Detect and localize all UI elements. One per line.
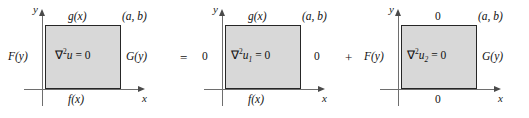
y-axis-arrow-icon: [395, 9, 401, 16]
corner-coordinate-label: (a, b): [302, 11, 327, 23]
interior-equation: ∇2u1 = 0: [231, 50, 270, 62]
equation-suffix: = 0: [428, 49, 446, 61]
y-axis-arrow-icon: [39, 9, 45, 16]
boundary-label-left: 0: [202, 51, 208, 63]
x-axis-label: x: [142, 92, 147, 104]
interior-equation: ∇2u2 = 0: [407, 50, 446, 62]
equation-suffix: = 0: [252, 49, 270, 61]
y-axis-line: [222, 12, 223, 106]
x-axis-label: x: [498, 92, 503, 104]
x-axis-line: [204, 89, 320, 90]
interior-equation: ∇2u = 0: [55, 50, 91, 62]
boundary-label-left: F(y): [8, 51, 28, 63]
superposition-figure: y x g(x) f(x) F(y) G(y) (a, b) ∇2u = 0 =…: [0, 0, 529, 118]
corner-coordinate-label: (a, b): [478, 11, 503, 23]
y-axis-line: [398, 12, 399, 106]
x-axis-label: x: [322, 92, 327, 104]
equation-suffix: = 0: [73, 49, 91, 61]
nabla-symbol: ∇: [55, 49, 63, 61]
boundary-label-bottom: f(x): [248, 94, 264, 106]
y-axis-label: y: [389, 3, 394, 15]
boundary-label-right: 0: [314, 51, 320, 63]
boundary-label-top: 0: [435, 11, 441, 23]
panel-original: y x g(x) f(x) F(y) G(y) (a, b) ∇2u = 0: [0, 0, 176, 118]
y-axis-label: y: [33, 3, 38, 15]
nabla-symbol: ∇: [231, 49, 239, 61]
y-axis-label: y: [213, 3, 218, 15]
nabla-symbol: ∇: [407, 49, 415, 61]
panel-subproblem-1: y x g(x) f(x) 0 0 (a, b) ∇2u1 = 0: [180, 0, 356, 118]
boundary-label-left: F(y): [364, 51, 384, 63]
y-axis-arrow-icon: [219, 9, 225, 16]
boundary-label-right: G(y): [482, 51, 503, 63]
boundary-label-right: G(y): [126, 51, 147, 63]
panel-subproblem-2: y x 0 0 F(y) G(y) (a, b) ∇2u2 = 0: [356, 0, 529, 118]
x-axis-line: [380, 89, 496, 90]
boundary-label-bottom: f(x): [68, 94, 84, 106]
boundary-label-bottom: 0: [435, 94, 441, 106]
boundary-label-top: g(x): [248, 11, 267, 23]
x-axis-line: [24, 89, 140, 90]
plus-operator: +: [345, 50, 352, 66]
boundary-label-top: g(x): [68, 11, 87, 23]
corner-coordinate-label: (a, b): [122, 11, 147, 23]
y-axis-line: [42, 12, 43, 106]
